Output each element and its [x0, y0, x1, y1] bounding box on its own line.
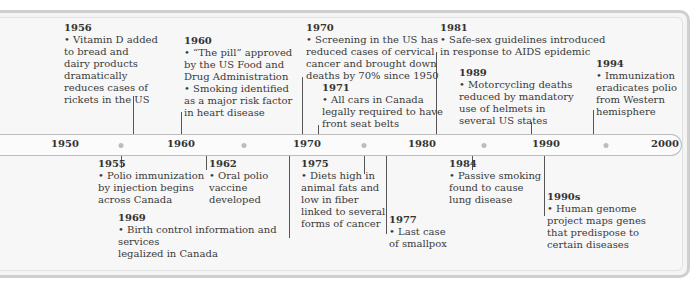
event-year: 1984 — [449, 158, 549, 170]
midpoint-dot-1975 — [362, 143, 367, 148]
event-year: 1960 — [184, 35, 304, 47]
midpoint-dot-1955 — [119, 143, 124, 148]
event-text: to bread and — [64, 46, 174, 58]
event-text: reduced by mandatory — [459, 91, 579, 103]
event-text: • “The pill” approved — [184, 47, 304, 59]
event-text: • Screening in the US has — [306, 34, 446, 46]
event-text: forms of cancer — [301, 218, 391, 230]
event-text: by the US Food and — [184, 59, 304, 71]
event-year: 1955 — [98, 158, 208, 170]
event-1977: 1977 • Last case of smallpox — [389, 214, 459, 250]
event-text: • Last case — [389, 226, 459, 238]
tick-1970: 1970 — [293, 138, 321, 149]
event-text: hemisphere — [596, 106, 686, 118]
event-text: lung disease — [449, 194, 549, 206]
event-text: • Immunization — [596, 70, 686, 82]
event-text: • All cars in Canada — [322, 94, 452, 106]
tick-1980: 1980 — [408, 138, 436, 149]
event-text: reduced cases of cervical — [306, 46, 446, 58]
event-text: by injection begins — [98, 182, 208, 194]
connector-1960 — [181, 112, 182, 134]
event-year: 1989 — [459, 67, 579, 79]
event-1981: 1981 • Safe-sex guidelines introduced in… — [440, 22, 620, 58]
event-year: 1975 — [301, 158, 391, 170]
event-year: 1977 — [389, 214, 459, 226]
event-text: developed — [209, 194, 289, 206]
event-text: legally required to have — [322, 106, 452, 118]
event-text: Drug Administration — [184, 71, 304, 83]
timeline-axis: 1950 1960 1970 1980 1990 2000 — [0, 134, 682, 156]
event-text: found to cause — [449, 182, 549, 194]
event-text: cancer and brought down — [306, 58, 446, 70]
event-text: reduces cases of — [64, 82, 174, 94]
event-1969: 1969 • Birth control information and ser… — [118, 212, 298, 260]
event-1984: 1984 • Passive smoking found to cause lu… — [449, 158, 549, 206]
event-text: • Polio immunization — [98, 170, 208, 182]
event-text: • Diets high in — [301, 170, 391, 182]
event-text: • Oral polio — [209, 170, 289, 182]
event-text: • Motorcycling deaths — [459, 79, 579, 91]
event-text: low in fiber — [301, 194, 391, 206]
event-text: of smallpox — [389, 238, 459, 250]
event-text: • Birth control information and services — [118, 224, 298, 248]
tick-1950: 1950 — [51, 138, 79, 149]
event-1975: 1975 • Diets high in animal fats and low… — [301, 158, 391, 230]
event-year: 1970 — [306, 22, 446, 34]
event-text: • Passive smoking — [449, 170, 549, 182]
event-text: dairy products — [64, 58, 174, 70]
event-text: vaccine — [209, 182, 289, 194]
event-text: • Human genome — [547, 203, 657, 215]
event-1971: 1971 • All cars in Canada legally requir… — [322, 82, 452, 130]
event-year: 1994 — [596, 58, 686, 70]
event-text: certain diseases — [547, 239, 657, 251]
event-text: • Smoking identified — [184, 83, 304, 95]
event-text: linked to several — [301, 206, 391, 218]
event-1994: 1994 • Immunization eradicates polio fro… — [596, 58, 686, 118]
event-text: from Western — [596, 94, 686, 106]
event-1956: 1956 • Vitamin D added to bread and dair… — [64, 22, 174, 106]
tick-1990: 1990 — [532, 138, 560, 149]
event-text: front seat belts — [322, 118, 452, 130]
event-year: 1981 — [440, 22, 620, 34]
event-text: • Safe-sex guidelines introduced — [440, 34, 620, 46]
event-text: several US states — [459, 115, 579, 127]
event-1962: 1962 • Oral polio vaccine developed — [209, 158, 289, 206]
event-year: 1962 — [209, 158, 289, 170]
event-1955: 1955 • Polio immunization by injection b… — [98, 158, 208, 206]
event-1989: 1989 • Motorcycling deaths reduced by ma… — [459, 67, 579, 127]
event-text: dramatically — [64, 70, 174, 82]
midpoint-dot-1965 — [242, 143, 247, 148]
tick-2000: 2000 — [651, 138, 679, 149]
event-year: 1971 — [322, 82, 452, 94]
midpoint-dot-1995 — [604, 143, 609, 148]
event-text: that predispose to — [547, 227, 657, 239]
connector-1971 — [318, 125, 319, 134]
event-1990s: 1990s • Human genome project maps genes … — [547, 191, 657, 251]
event-text: deaths by 70% since 1950 — [306, 70, 446, 82]
event-text: legalized in Canada — [118, 248, 298, 260]
event-text: as a major risk factor — [184, 95, 304, 107]
event-year: 1956 — [64, 22, 174, 34]
connector-1994 — [593, 110, 594, 134]
event-text: across Canada — [98, 194, 208, 206]
midpoint-dot-1985 — [482, 143, 487, 148]
event-text: project maps genes — [547, 215, 657, 227]
event-text: use of helmets in — [459, 103, 579, 115]
event-text: in heart disease — [184, 107, 304, 119]
event-text: in response to AIDS epidemic — [440, 46, 620, 58]
event-year: 1990s — [547, 191, 657, 203]
event-text: rickets in the US — [64, 94, 174, 106]
event-text: eradicates polio — [596, 82, 686, 94]
event-1960: 1960 • “The pill” approved by the US Foo… — [184, 35, 304, 119]
event-year: 1969 — [118, 212, 298, 224]
event-1970: 1970 • Screening in the US has reduced c… — [306, 22, 446, 82]
event-text: animal fats and — [301, 182, 391, 194]
tick-1960: 1960 — [167, 138, 195, 149]
event-text: • Vitamin D added — [64, 34, 174, 46]
